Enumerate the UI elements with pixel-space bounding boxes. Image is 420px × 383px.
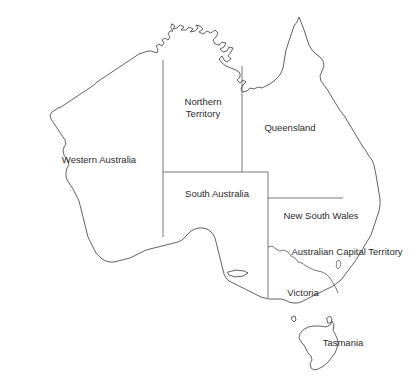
label-western-australia: Western Australia bbox=[62, 154, 136, 165]
australia-map-figure: Western Australia Northern Territory Que… bbox=[0, 0, 420, 383]
label-queensland: Queensland bbox=[264, 122, 315, 133]
label-new-south-wales: New South Wales bbox=[283, 210, 358, 221]
label-australian-capital-territory: Australian Capital Territory bbox=[291, 246, 402, 257]
label-victoria: Victoria bbox=[287, 287, 319, 298]
label-northern-territory-line2: Territory bbox=[186, 108, 220, 119]
label-south-australia: South Australia bbox=[185, 188, 249, 199]
label-northern-territory-line1: Northern bbox=[185, 96, 222, 107]
label-tasmania: Tasmania bbox=[323, 337, 364, 348]
king-island bbox=[292, 316, 296, 322]
